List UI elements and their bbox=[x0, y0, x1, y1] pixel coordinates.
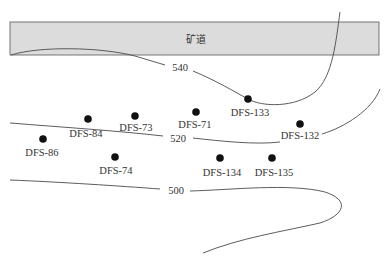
well-label: DFS-74 bbox=[99, 165, 133, 176]
well-marker bbox=[192, 108, 200, 116]
contour-500-label: 500 bbox=[168, 185, 184, 196]
tunnel-label: 矿道 bbox=[186, 33, 206, 45]
contour-540-label: 540 bbox=[172, 62, 188, 73]
well-label: DFS-132 bbox=[281, 130, 320, 141]
tunnel: 矿道 bbox=[10, 22, 379, 55]
well-dfs-73: DFS-73 bbox=[119, 112, 152, 133]
well-label: DFS-71 bbox=[178, 119, 211, 130]
well-marker bbox=[84, 115, 92, 123]
well-dfs-71: DFS-71 bbox=[178, 108, 211, 130]
well-dfs-84: DFS-84 bbox=[69, 115, 103, 139]
well-marker bbox=[268, 154, 276, 162]
contour-500-line bbox=[10, 180, 160, 189]
well-dfs-133: DFS-133 bbox=[231, 95, 270, 118]
well-marker bbox=[216, 154, 224, 162]
well-label: DFS-86 bbox=[25, 147, 58, 158]
well-dfs-132: DFS-132 bbox=[281, 120, 320, 141]
contour-520-label: 520 bbox=[170, 133, 186, 144]
contour-520-line-3 bbox=[322, 89, 380, 134]
contour-map: 矿道 540 520 500 DFS-86 DFS-84 DFS-73 DFS-… bbox=[0, 0, 387, 268]
well-label: DFS-133 bbox=[231, 107, 270, 118]
well-marker bbox=[244, 95, 252, 103]
well-dfs-86: DFS-86 bbox=[25, 135, 58, 158]
contour-500-line-2 bbox=[190, 187, 341, 253]
well-label: DFS-73 bbox=[119, 122, 152, 133]
well-label: DFS-84 bbox=[69, 128, 103, 139]
contour-520-line-2 bbox=[193, 138, 280, 143]
well-marker bbox=[296, 120, 304, 128]
well-marker bbox=[131, 112, 139, 120]
well-label: DFS-134 bbox=[203, 167, 242, 178]
well-marker bbox=[39, 135, 47, 143]
contour-500: 500 bbox=[10, 180, 341, 253]
well-marker bbox=[111, 153, 119, 161]
well-dfs-134: DFS-134 bbox=[203, 154, 242, 178]
well-dfs-74: DFS-74 bbox=[99, 153, 133, 176]
contour-520: 520 bbox=[10, 89, 380, 144]
well-label: DFS-135 bbox=[255, 167, 294, 178]
well-dfs-135: DFS-135 bbox=[255, 154, 294, 178]
